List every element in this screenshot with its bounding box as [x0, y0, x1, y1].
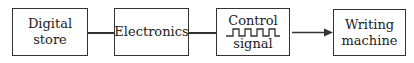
control-signal-label-bottom: signal: [233, 37, 272, 51]
digital-store-label-line2: store: [33, 32, 67, 48]
arrow-control-to-writing: [290, 27, 334, 38]
electronics-box: Electronics: [114, 8, 189, 56]
writing-machine-label-line1: Writing: [345, 17, 394, 33]
control-signal-box: Control signal: [216, 8, 290, 56]
digital-store-label-line1: Digital: [28, 16, 72, 32]
writing-machine-box: Writing machine: [333, 9, 406, 56]
electronics-label: Electronics: [114, 24, 188, 40]
digital-store-box: Digital store: [12, 8, 88, 56]
control-signal-label-top: Control: [228, 14, 278, 28]
writing-machine-label-line2: machine: [342, 33, 398, 49]
connector-store-electronics: [88, 32, 114, 34]
connector-electronics-control: [189, 32, 216, 34]
